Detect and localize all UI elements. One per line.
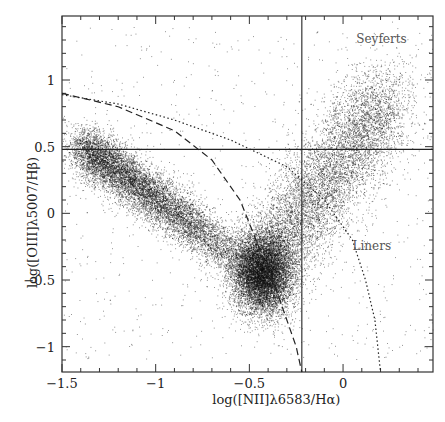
scatter-plot bbox=[0, 0, 445, 422]
x-axis-label: log([NII]λ6583/Hα) bbox=[212, 392, 340, 407]
y-tick-label: −1 bbox=[15, 339, 55, 354]
y-tick-label: 1 bbox=[15, 73, 55, 88]
data-points bbox=[62, 22, 433, 359]
x-tick-label: −0.5 bbox=[234, 376, 266, 391]
x-tick-label: 0 bbox=[339, 376, 347, 391]
y-axis-label: log([OIII]λ5007/Hβ) bbox=[25, 143, 40, 303]
x-tick-label: −1.5 bbox=[46, 376, 78, 391]
x-tick-label: −1 bbox=[146, 376, 165, 391]
annotation-seyferts: Seyferts bbox=[356, 32, 406, 46]
annotation-liners: Liners bbox=[353, 239, 392, 253]
